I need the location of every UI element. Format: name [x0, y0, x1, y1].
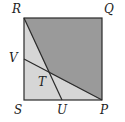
label-Q: Q: [104, 3, 114, 15]
label-U: U: [57, 104, 67, 116]
label-P: P: [100, 104, 108, 116]
label-V: V: [9, 52, 18, 64]
label-T: T: [38, 76, 46, 88]
label-S: S: [14, 104, 22, 116]
label-R: R: [12, 3, 21, 15]
